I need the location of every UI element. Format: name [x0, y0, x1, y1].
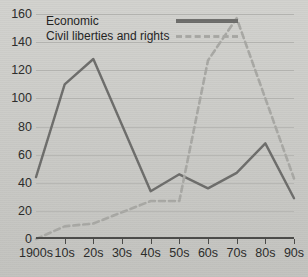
y-axis-tick-label: 140: [2, 35, 32, 49]
x-axis-tick-label: 80s: [255, 246, 275, 260]
y-axis-tick-label: 100: [2, 91, 32, 105]
y-axis-tick-label: 40: [2, 176, 32, 190]
legend-label-economic: Economic: [46, 14, 169, 29]
x-axis-tick: [294, 239, 295, 244]
series-line-civil-liberties: [36, 18, 294, 239]
y-axis-tick-label: 0: [2, 232, 32, 246]
x-axis-tick: [122, 239, 123, 244]
x-axis-tick: [151, 239, 152, 244]
x-axis-tick-label: 90s: [284, 246, 304, 260]
y-axis-tick-label: 120: [2, 63, 32, 77]
series-lines: [36, 14, 294, 239]
x-axis-tick-label: 30s: [112, 246, 132, 260]
plot-area: 020406080100120140160 1900s10s20s30s40s5…: [36, 14, 294, 239]
x-axis-tick-label: 10s: [55, 246, 75, 260]
y-axis-tick-label: 160: [2, 7, 32, 21]
y-axis-tick-label: 80: [2, 120, 32, 134]
series-line-economic: [36, 59, 294, 198]
x-axis-tick: [208, 239, 209, 244]
y-axis-tick-label: 20: [2, 204, 32, 218]
chart-legend: Economic Civil liberties and rights: [46, 14, 169, 44]
solid-line-key-icon: [176, 19, 238, 23]
x-axis-tick: [179, 239, 180, 244]
x-axis-tick: [65, 239, 66, 244]
x-axis-tick-label: 60s: [198, 246, 218, 260]
x-axis-tick-label: 1900s: [19, 246, 53, 260]
x-axis-tick-label: 70s: [227, 246, 247, 260]
dashed-line-key-icon: [176, 35, 238, 38]
chart-screenshot: 020406080100120140160 1900s10s20s30s40s5…: [0, 0, 308, 277]
x-axis: [36, 237, 294, 239]
x-axis-tick: [265, 239, 266, 244]
x-axis-tick: [237, 239, 238, 244]
x-axis-tick-label: 20s: [83, 246, 103, 260]
y-axis-tick-label: 60: [2, 148, 32, 162]
x-axis-tick: [93, 239, 94, 244]
legend-label-civil-liberties: Civil liberties and rights: [46, 29, 169, 44]
x-axis-tick-label: 50s: [169, 246, 189, 260]
x-axis-tick-label: 40s: [141, 246, 161, 260]
